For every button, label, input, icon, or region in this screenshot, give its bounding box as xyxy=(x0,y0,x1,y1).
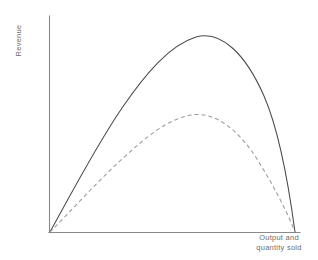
y-axis-label: Revenue xyxy=(14,11,23,71)
x-axis-label: Output and quantity sold xyxy=(246,233,312,252)
x-axis-label-line-2: quantity sold xyxy=(246,243,312,253)
total-revenue-curve-solid xyxy=(50,36,295,232)
chart-canvas xyxy=(0,0,318,260)
revenue-chart-figure: Revenue Output and quantity sold xyxy=(0,0,318,260)
x-axis-label-line-1: Output and xyxy=(259,233,299,242)
total-revenue-curve-dashed xyxy=(50,114,295,232)
